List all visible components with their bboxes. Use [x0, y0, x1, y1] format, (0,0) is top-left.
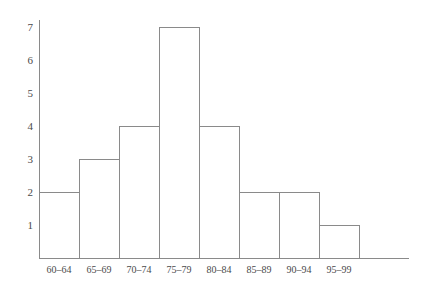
- x-tick-label: 70–74: [119, 264, 159, 276]
- x-tick-label: 80–84: [199, 264, 239, 276]
- x-tick-label: 75–79: [159, 264, 199, 276]
- x-tick-label: 60–64: [39, 264, 79, 276]
- histogram-chart: 1234567 60–6465–6970–7475–7980–8485–8990…: [0, 0, 425, 300]
- x-axis-tick-labels: 60–6465–6970–7475–7980–8485–8990–9495–99: [0, 0, 425, 300]
- x-tick-label: 95–99: [319, 264, 359, 276]
- x-tick-label: 90–94: [279, 264, 319, 276]
- x-tick-label: 85–89: [239, 264, 279, 276]
- x-tick-label: 65–69: [79, 264, 119, 276]
